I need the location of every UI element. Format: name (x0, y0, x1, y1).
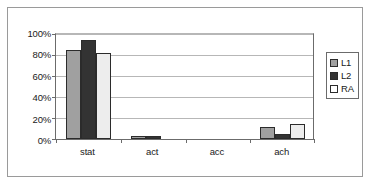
x-tick-mark-3 (250, 139, 251, 143)
legend-item-L2: L2 (330, 69, 354, 82)
legend-item-L1: L1 (330, 56, 354, 69)
bar-act-L1 (131, 136, 146, 139)
bar-group-stat (56, 34, 121, 139)
bar-ach-RA (290, 124, 305, 139)
legend-swatch-icon-RA (330, 85, 338, 93)
legend-item-RA: RA (330, 82, 354, 95)
x-tick-mark-4 (314, 139, 315, 143)
y-tick-label-100: 100% (28, 28, 52, 39)
legend-label-L2: L2 (341, 71, 351, 81)
bar-stat-L1 (66, 50, 81, 139)
x-tick-label-acc: acc (185, 146, 250, 157)
bar-group-act (121, 34, 186, 139)
legend-label-RA: RA (341, 84, 354, 94)
y-tick-label-80: 80% (33, 49, 51, 60)
plot-area (55, 33, 314, 140)
y-tick-label-20: 20% (33, 113, 51, 124)
legend-label-L1: L1 (341, 58, 351, 68)
bar-group-ach (250, 34, 315, 139)
chart-frame: 100% 80% 60% 40% 20% 0% (7, 7, 363, 177)
x-tick-label-act: act (120, 146, 185, 157)
y-tick-label-0: 0% (38, 135, 51, 146)
bar-ach-L2 (275, 134, 290, 139)
x-tick-mark-2 (186, 139, 187, 143)
bar-stat-L2 (81, 40, 96, 139)
bar-act-L2 (146, 136, 161, 139)
bar-group-acc (186, 34, 251, 139)
x-tick-label-ach: ach (249, 146, 314, 157)
y-tick-label-40: 40% (33, 92, 51, 103)
bar-stat-RA (96, 53, 111, 139)
x-tick-mark-1 (121, 139, 122, 143)
chart-legend: L1 L2 RA (326, 52, 359, 99)
x-tick-mark-0 (56, 139, 57, 143)
y-axis: 100% 80% 60% 40% 20% 0% (8, 33, 51, 140)
legend-swatch-icon-L2 (330, 72, 338, 80)
y-tick-label-60: 60% (33, 70, 51, 81)
bar-ach-L1 (260, 127, 275, 139)
legend-swatch-icon-L1 (330, 59, 338, 67)
x-tick-label-stat: stat (55, 146, 120, 157)
